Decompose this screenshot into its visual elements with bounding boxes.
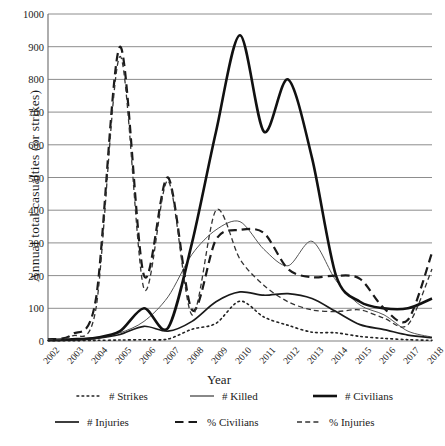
y-tick-label: 600 bbox=[18, 139, 44, 150]
x-axis-title: Year bbox=[0, 372, 438, 388]
legend-label: % Injuries bbox=[329, 416, 375, 428]
y-tick-label: 900 bbox=[18, 41, 44, 52]
legend-item[interactable]: # Civilians bbox=[312, 390, 393, 402]
plot-svg bbox=[48, 14, 432, 341]
y-tick-label: 800 bbox=[18, 74, 44, 85]
legend-swatch-icon bbox=[312, 390, 338, 402]
chart-legend: # Strikes# Killed# Civilians # Injuries%… bbox=[24, 390, 424, 442]
legend-swatch-icon bbox=[174, 416, 200, 428]
legend-label: # Strikes bbox=[109, 390, 148, 402]
y-tick-label: 400 bbox=[18, 205, 44, 216]
plot-area bbox=[48, 14, 432, 341]
legend-label: # Killed bbox=[222, 390, 258, 402]
y-tick-label: 500 bbox=[18, 172, 44, 183]
legend-item[interactable]: # Strikes bbox=[76, 390, 148, 402]
y-tick-label: 200 bbox=[18, 270, 44, 281]
legend-swatch-icon bbox=[76, 390, 102, 402]
legend-item[interactable]: % Civilians bbox=[174, 416, 259, 428]
y-tick-label: 1000 bbox=[18, 9, 44, 20]
legend-swatch-icon bbox=[54, 416, 80, 428]
legend-swatch-icon bbox=[189, 390, 215, 402]
legend-item[interactable]: # Injuries bbox=[54, 416, 129, 428]
series-line bbox=[48, 221, 432, 340]
series-line bbox=[48, 292, 432, 341]
y-tick-label: 300 bbox=[18, 237, 44, 248]
y-tick-label: 700 bbox=[18, 107, 44, 118]
legend-item[interactable]: # Killed bbox=[189, 390, 258, 402]
legend-label: # Injuries bbox=[87, 416, 129, 428]
legend-label: % Civilians bbox=[207, 416, 259, 428]
y-tick-label: 0 bbox=[18, 336, 44, 347]
legend-label: # Civilians bbox=[345, 390, 393, 402]
legend-swatch-icon bbox=[296, 416, 322, 428]
legend-item[interactable]: % Injuries bbox=[296, 416, 375, 428]
y-tick-label: 100 bbox=[18, 303, 44, 314]
